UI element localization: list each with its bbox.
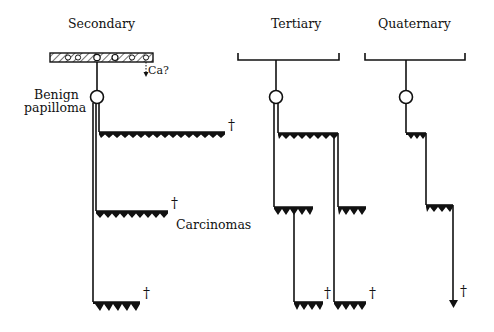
epithelium-bar <box>50 53 153 62</box>
papilloma-node-quaternary <box>400 91 413 104</box>
tumor-lineage-diagram <box>0 0 494 332</box>
death-marker: † <box>369 286 376 300</box>
death-marker: † <box>324 286 331 300</box>
death-marker: † <box>460 284 467 298</box>
death-marker: † <box>143 286 150 300</box>
papilloma-node-secondary <box>91 91 104 104</box>
death-marker: † <box>171 196 178 210</box>
death-marker: † <box>228 118 235 132</box>
papilloma-node-tertiary <box>270 91 283 104</box>
